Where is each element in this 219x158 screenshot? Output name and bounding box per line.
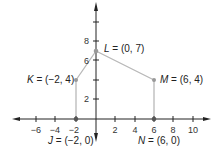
x-tick-label: 6 <box>151 125 156 135</box>
x-tick-label: 2 <box>112 125 117 135</box>
x-tick-label: −6 <box>31 125 41 135</box>
point-j <box>74 117 79 122</box>
segment-lm <box>96 51 154 80</box>
x-axis-right-arrow-icon <box>203 117 211 121</box>
point-label-l: L = (0, 7) <box>104 43 144 54</box>
y-axis-down-arrow-icon <box>94 133 98 142</box>
coordinate-plane: −6 −4 −2 2 4 6 8 10 8 6 2 L = (0, 7) K =… <box>0 0 219 158</box>
x-tick-label: −2 <box>69 125 79 135</box>
y-tick-label: 2 <box>84 94 89 104</box>
y-axis: 8 6 2 <box>84 2 99 142</box>
point-l <box>94 49 99 54</box>
x-tick-label: −4 <box>50 125 60 135</box>
point-label-k: K = (−2, 4) <box>27 74 74 85</box>
point-k <box>74 78 78 82</box>
point-label-m: M = (6, 4) <box>160 74 203 85</box>
point-label-n: N = (6, 0) <box>138 135 180 146</box>
x-tick-label: 10 <box>188 125 198 135</box>
y-tick-label: 6 <box>84 56 89 66</box>
x-axis: −6 −4 −2 2 4 6 8 10 <box>12 116 211 135</box>
point-m <box>152 78 156 82</box>
point-label-j: J = (−2, 0) <box>47 135 94 146</box>
y-tick-label: 8 <box>84 36 89 46</box>
x-tick-label: 8 <box>170 125 175 135</box>
x-axis-left-arrow-icon <box>12 117 20 121</box>
point-n <box>152 117 157 122</box>
x-tick-label: 4 <box>132 125 137 135</box>
y-axis-up-arrow-icon <box>94 2 98 11</box>
